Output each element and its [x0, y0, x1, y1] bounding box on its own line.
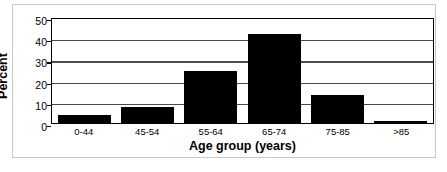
x-tick-label: 0-44 [52, 126, 116, 137]
y-axis-tick-labels: 50 40 30 20 10 0 [22, 12, 47, 130]
y-tick-label: 20 [25, 80, 47, 90]
bar-series [52, 19, 433, 123]
bar[interactable] [374, 121, 427, 123]
x-tick-label: 45-54 [116, 126, 180, 137]
bar-slot [306, 19, 369, 123]
plot-area [51, 18, 434, 124]
bar-slot [53, 19, 116, 123]
y-tick-label: 50 [25, 16, 47, 26]
y-tick-label: 40 [25, 37, 47, 47]
x-tick-label: >85 [370, 126, 434, 137]
bar[interactable] [248, 34, 301, 123]
bar[interactable] [184, 71, 237, 123]
y-axis-label: Percent [0, 36, 10, 116]
x-tick-label: 65-74 [243, 126, 307, 137]
bar[interactable] [311, 95, 364, 123]
x-axis-label: Age group (years) [51, 139, 434, 153]
bar[interactable] [121, 107, 174, 123]
y-tick-label: 0 [25, 122, 47, 132]
bar-slot [179, 19, 242, 123]
bar-slot [116, 19, 179, 123]
x-axis-tick-labels: 0-44 45-54 55-64 65-74 75-85 >85 [51, 126, 434, 137]
bar-chart-figure: Percent 50 40 30 20 10 0 0-44 45-54 55-6… [0, 0, 447, 172]
bar[interactable] [58, 115, 111, 123]
y-tick-label: 10 [25, 101, 47, 111]
bar-slot [243, 19, 306, 123]
x-tick-label: 55-64 [179, 126, 243, 137]
bar-slot [369, 19, 432, 123]
x-tick-label: 75-85 [306, 126, 370, 137]
y-tick-label: 30 [25, 58, 47, 68]
